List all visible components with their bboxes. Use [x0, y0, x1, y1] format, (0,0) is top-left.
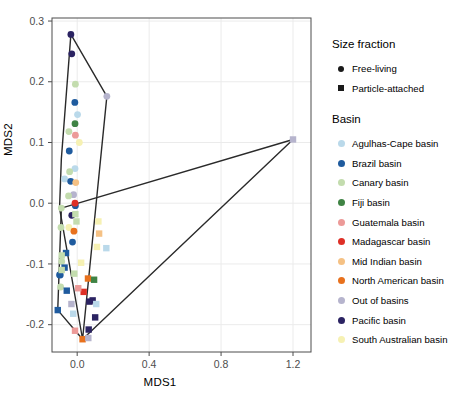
y-tick-label: 0.0	[29, 197, 44, 209]
legend-size-fraction-item[interactable]: Free-living	[330, 59, 462, 79]
point-marker-circle	[69, 239, 76, 246]
point-marker-circle	[72, 132, 79, 139]
legend-basin-item[interactable]: Madagascar basin	[330, 232, 462, 252]
legend-basin-item[interactable]: Canary basin	[330, 173, 462, 193]
legend-basin-swatch	[330, 140, 352, 147]
y-tick-label: 0.3	[29, 15, 44, 27]
point-marker-circle	[66, 148, 73, 155]
legend-basin-swatch	[330, 160, 352, 167]
point-marker-square	[92, 314, 98, 320]
legend-basin-label: Canary basin	[352, 177, 409, 188]
point-marker-square	[95, 218, 101, 224]
point-marker-circle	[72, 120, 79, 127]
scatter-plot-svg: 0.00.40.81.2-0.2-0.10.00.10.20.3	[0, 0, 320, 401]
x-tick-label: 1.2	[286, 358, 301, 370]
legend-basin-item[interactable]: Brazil basin	[330, 154, 462, 174]
point-marker-circle	[71, 228, 78, 235]
legend-basin-label: Agulhas-Cape basin	[352, 138, 438, 149]
y-tick-label: -0.1	[26, 258, 44, 270]
legend-size-fraction-swatch	[330, 85, 352, 91]
legend-basin-item[interactable]: Mid Indian basin	[330, 252, 462, 272]
point-marker-square	[96, 230, 102, 236]
legend-basin-title: Basin	[332, 113, 462, 125]
legend-basin-label: Madagascar basin	[352, 236, 430, 247]
basin-color-dot-icon	[338, 297, 345, 304]
free-living-circle-icon	[338, 66, 344, 72]
legend-container: Size fraction Free-livingParticle-attach…	[330, 0, 462, 401]
point-marker-circle	[71, 99, 78, 106]
legend-basin-swatch	[330, 238, 352, 245]
basin-color-dot-icon	[338, 258, 345, 265]
point-marker-square	[55, 307, 61, 313]
point-marker-square	[94, 244, 100, 250]
legend-basin-swatch	[330, 297, 352, 304]
point-marker-circle	[58, 224, 65, 231]
legend-basin-item[interactable]: Out of basins	[330, 291, 462, 311]
legend-size-fraction-item[interactable]: Particle-attached	[330, 79, 462, 99]
point-marker-circle	[103, 93, 110, 100]
legend-size-fraction-rows: Free-livingParticle-attached	[330, 59, 462, 98]
point-marker-square	[93, 301, 99, 307]
point-marker-circle	[61, 176, 68, 183]
point-marker-square	[59, 267, 65, 273]
legend-basin-label: Mid Indian basin	[352, 256, 422, 267]
point-marker-square	[59, 252, 65, 258]
point-marker-circle	[72, 200, 79, 207]
point-marker-circle	[58, 258, 65, 265]
x-tick-label: 0.8	[214, 358, 229, 370]
legend-basin-swatch	[330, 199, 352, 206]
point-marker-circle	[66, 128, 73, 135]
point-marker-square	[73, 218, 79, 224]
y-tick-label: 0.1	[29, 136, 44, 148]
y-tick-label: -0.2	[26, 318, 44, 330]
basin-color-dot-icon	[338, 317, 345, 324]
point-marker-circle	[65, 193, 72, 200]
point-marker-square	[85, 275, 91, 281]
legend-basin-label: North American basin	[352, 275, 444, 286]
y-axis-title: MDS2	[2, 123, 14, 156]
legend-basin-label: Out of basins	[352, 295, 409, 306]
point-marker-square	[71, 270, 77, 276]
point-marker-square	[85, 326, 91, 332]
point-marker-circle	[68, 50, 75, 57]
legend-basin-swatch	[330, 258, 352, 265]
legend-basin-item[interactable]: Guatemala basin	[330, 212, 462, 232]
x-tick-label: 0.4	[142, 358, 157, 370]
legend-basin-item[interactable]: Fiji basin	[330, 193, 462, 213]
legend-basin-item[interactable]: Pacific basin	[330, 310, 462, 330]
point-marker-square	[91, 277, 97, 283]
basin-color-dot-icon	[338, 160, 345, 167]
point-marker-square	[68, 301, 74, 307]
basin-color-dot-icon	[338, 336, 345, 343]
x-tick-label: 0.0	[70, 358, 85, 370]
legend-basin-item[interactable]: North American basin	[330, 271, 462, 291]
basin-color-dot-icon	[338, 199, 345, 206]
point-marker-circle	[72, 179, 79, 186]
legend-basin-swatch	[330, 179, 352, 186]
basin-color-dot-icon	[338, 238, 345, 245]
point-marker-square	[70, 311, 76, 317]
chart-root: 0.00.40.81.2-0.2-0.10.00.10.20.3 MDS2 MD…	[0, 0, 462, 401]
plot-area: 0.00.40.81.2-0.2-0.10.00.10.20.3 MDS2 MD…	[0, 0, 320, 401]
legend-basin-swatch	[330, 219, 352, 226]
legend-basin-label: Guatemala basin	[352, 217, 425, 228]
point-marker-square	[85, 335, 91, 341]
y-tick-label: 0.2	[29, 75, 44, 87]
basin-color-dot-icon	[338, 179, 345, 186]
point-marker-square	[75, 285, 81, 291]
legend-size-fraction-swatch	[330, 66, 352, 72]
legend-basin-item[interactable]: South Australian basin	[330, 330, 462, 350]
particle-attached-square-icon	[338, 85, 344, 91]
point-marker-square	[103, 245, 109, 251]
point-marker-circle	[58, 205, 65, 212]
point-marker-square	[72, 211, 78, 217]
point-marker-square	[290, 136, 296, 142]
point-marker-circle	[74, 111, 81, 118]
legend-basin-item[interactable]: Agulhas-Cape basin	[330, 134, 462, 154]
legend-basin-swatch	[330, 317, 352, 324]
point-marker-circle	[67, 31, 74, 38]
x-axis-title: MDS1	[0, 376, 320, 388]
legend-basin: Basin Agulhas-Cape basinBrazil basinCana…	[330, 113, 462, 350]
legend-size-fraction-label: Particle-attached	[352, 83, 424, 94]
point-marker-circle	[72, 81, 79, 88]
